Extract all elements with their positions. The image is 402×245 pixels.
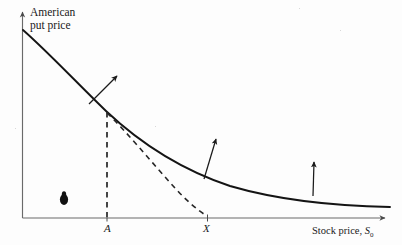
x-axis-label-text: Stock price, bbox=[312, 225, 362, 236]
y-axis-label-line-2: put price bbox=[30, 19, 75, 32]
scan-speckle bbox=[340, 30, 341, 31]
x-tick-label-a: A bbox=[104, 222, 111, 234]
annotation-arrow-3 bbox=[313, 162, 314, 196]
american-put-price-curve bbox=[23, 30, 390, 207]
x-axis-label: Stock price, S0 bbox=[312, 225, 374, 240]
y-axis-label: American put price bbox=[30, 6, 75, 32]
scan-speckle bbox=[15, 128, 16, 129]
x-axis-symbol-subscript: 0 bbox=[370, 231, 374, 239]
scan-speckle bbox=[299, 8, 300, 9]
figure-container: American put price Stock price, S0 A X bbox=[0, 0, 402, 245]
scan-speckle bbox=[155, 126, 156, 127]
x-tick-label-x: X bbox=[203, 222, 210, 234]
european-put-dashed-curve bbox=[107, 113, 207, 216]
dot-marker-tip-icon bbox=[62, 191, 66, 197]
annotation-arrow-2 bbox=[204, 139, 216, 179]
x-axis-label-symbol: S0 bbox=[365, 225, 374, 236]
y-axis-label-line-1: American bbox=[30, 6, 75, 19]
annotation-arrow-1 bbox=[89, 76, 117, 104]
chart-canvas bbox=[0, 0, 402, 245]
